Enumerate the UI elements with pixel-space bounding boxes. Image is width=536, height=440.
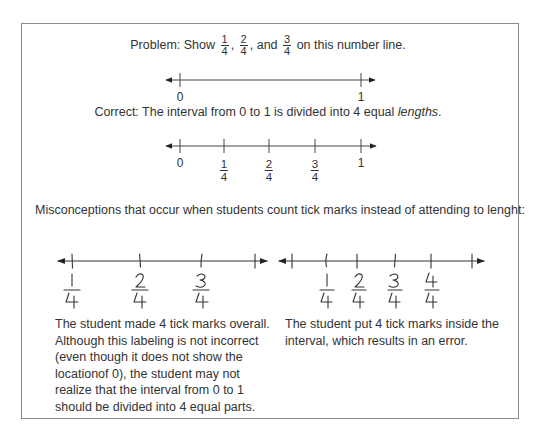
misconception-1-number-line [58,254,267,268]
misconceptions-heading: Misconceptions that occur when students … [35,202,525,218]
correct-number-line [166,139,376,153]
problem-label-1: 1 [358,90,365,104]
misconception-2-number-line [279,254,484,268]
correct-label-one-fourth: 14 [220,158,228,183]
problem-number-line [166,73,375,87]
misconception-1-description: The student made 4 tick marks overall. A… [55,316,275,415]
correct-label-three-fourths: 34 [311,158,319,183]
problem-label-0: 0 [177,90,184,104]
correct-label-1: 1 [358,156,365,170]
lengths-emphasis: lengths [398,105,438,119]
misconception-2-labels [320,273,439,308]
misconception-1-labels [64,274,209,308]
correct-label-0: 0 [177,156,184,170]
correct-label-two-fourths: 24 [265,158,273,183]
correct-statement: Correct: The interval from 0 to 1 is div… [0,104,536,120]
misconception-2-description: The student put 4 tick marks inside the … [285,316,500,349]
